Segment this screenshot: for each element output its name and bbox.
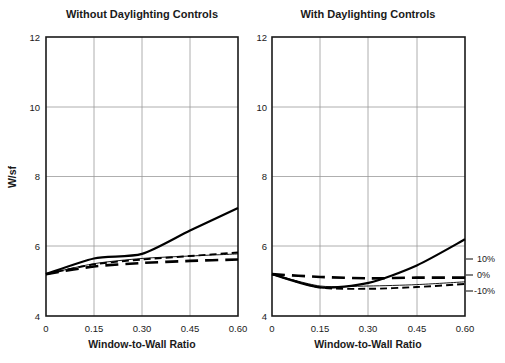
annot-label-neg10pct: -10% [474,286,495,296]
gridlines-horizontal-right [272,107,465,246]
ytick-label-right-8: 8 [262,171,267,182]
panel-without-daylighting: Without Daylighting Controls 12 10 8 6 4… [6,8,247,350]
ytick-label-right-4: 4 [262,311,267,322]
annot-label-0pct: 0% [477,270,490,280]
xtick-label-left-045: 0.45 [181,323,200,334]
x-axis-title-left: Window-to-Wall Ratio [88,338,195,350]
xtick-label-right-045: 0.45 [408,323,427,334]
annot-label-10pct: 10% [477,254,495,264]
xtick-label-left-060: 0.60 [229,323,248,334]
series-line-thick-solid [272,239,465,287]
ytick-label-right-10: 10 [256,102,267,113]
series-group-right [272,239,465,289]
right-annotations: 10% 0% -10% [466,254,495,296]
xtick-label-right-015: 0.15 [311,323,330,334]
x-axis-title-right: Window-to-Wall Ratio [314,338,421,350]
xtick-label-right-060: 0.60 [456,323,475,334]
ytick-label-left-12: 12 [29,32,40,43]
ytick-label-right-12: 12 [256,32,267,43]
figure-canvas: Without Daylighting Controls 12 10 8 6 4… [0,0,505,363]
xtick-label-left-015: 0.15 [85,323,104,334]
ytick-label-right-6: 6 [262,241,267,252]
panel-title-left: Without Daylighting Controls [66,8,218,20]
panel-with-daylighting: With Daylighting Controls 12 10 8 6 4 0 … [256,8,495,350]
ytick-label-left-4: 4 [35,311,40,322]
y-axis-title-left: W/sf [6,165,18,188]
ytick-label-left-10: 10 [29,102,40,113]
xtick-label-right-030: 0.30 [359,323,378,334]
series-line-long-dash [272,274,465,278]
xtick-label-left-030: 0.30 [133,323,152,334]
xtick-label-left-0: 0 [43,323,48,334]
xtick-label-right-0: 0 [269,323,274,334]
ytick-label-left-8: 8 [35,171,40,182]
panel-title-right: With Daylighting Controls [301,8,436,20]
ytick-label-left-6: 6 [35,241,40,252]
